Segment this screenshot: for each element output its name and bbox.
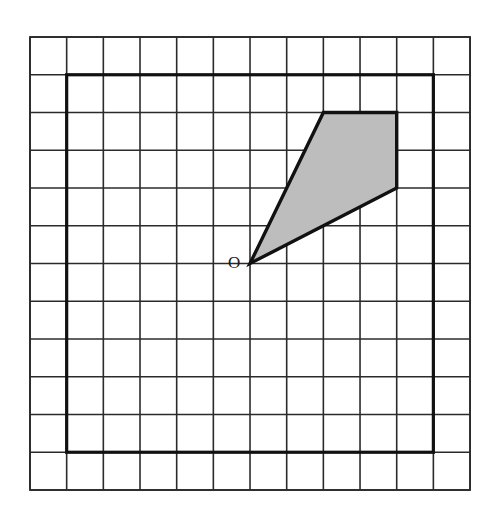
grid-geometry-diagram: O — [0, 0, 494, 519]
figure-root: O — [0, 0, 494, 519]
label-layer: O — [228, 253, 240, 272]
canvas-background — [0, 0, 494, 519]
origin-point-label: O — [228, 253, 240, 272]
